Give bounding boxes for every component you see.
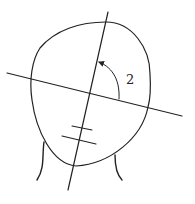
angle-arc-arrow-icon <box>99 62 119 99</box>
vertical-axis <box>68 12 108 190</box>
neck-line-left <box>37 142 44 180</box>
head-axes-diagram: 2 <box>0 0 195 204</box>
angle-label: 2 <box>126 72 134 87</box>
neck-line-right <box>115 155 122 180</box>
